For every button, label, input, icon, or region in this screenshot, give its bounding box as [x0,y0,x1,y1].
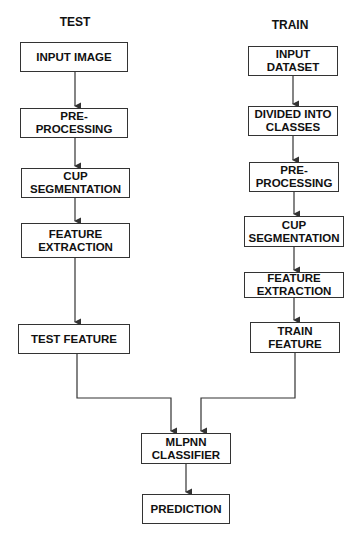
test-column-title: TEST [50,15,100,29]
test-cup-segmentation-box: CUP SEGMENTATION [21,168,130,198]
prediction-box: PREDICTION [142,494,230,524]
train-preprocessing-box: PRE- PROCESSING [249,162,339,192]
train-divided-into-classes-box: DIVIDED INTO CLASSES [248,106,338,136]
test-feature-box: TEST FEATURE [18,324,130,354]
mlpnn-classifier-box: MLPNN CLASSIFIER [141,433,231,464]
train-feature-extraction-box: FEATURE EXTRACTION [244,272,344,298]
test-feature-extraction-box: FEATURE EXTRACTION [21,223,130,258]
train-feature-box: TRAIN FEATURE [250,322,340,353]
test-preprocessing-box: PRE- PROCESSING [20,108,128,138]
train-input-dataset-box: INPUT DATASET [248,46,338,76]
train-column-title: TRAIN [265,18,315,32]
train-cup-segmentation-box: CUP SEGMENTATION [244,216,344,247]
test-input-image-box: INPUT IMAGE [20,42,128,72]
